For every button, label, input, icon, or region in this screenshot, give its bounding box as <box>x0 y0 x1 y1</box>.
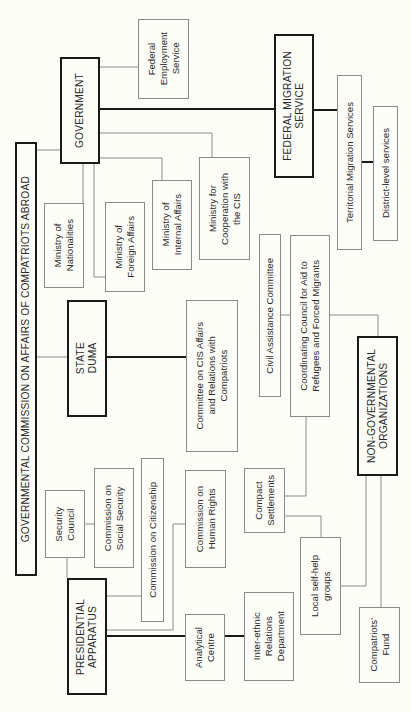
district-services-label: District-level services <box>380 128 392 218</box>
federal-migration-box: FEDERAL MIGRATION SERVICE <box>274 34 314 178</box>
compact-settlements-box: Compact Settlements <box>244 468 285 533</box>
coordinating-council-box: Coordinating Council for Aid to Refugees… <box>290 235 330 417</box>
commission-title: GOVERNMENTAL COMMISSION ON AFFAIRS OF CO… <box>20 176 32 542</box>
government-label: GOVERNMENT <box>74 73 86 148</box>
security-council-label: Security Council <box>53 507 77 542</box>
committee-cis-label: Committee on CIS Affairs and Relations w… <box>194 322 230 430</box>
ministry-foreign-box: Ministry of Foreign Affairs <box>105 202 145 292</box>
government-box: GOVERNMENT <box>60 57 100 164</box>
territorial-migration-label: Territorial Migration Services <box>344 102 356 223</box>
compact-settlements-label: Compact Settlements <box>253 475 277 526</box>
commission-citizenship-box: Commission on Citizenship <box>141 458 164 622</box>
commission-social-security-label: Commission on Social Security <box>102 485 126 551</box>
committee-cis-box: Committee on CIS Affairs and Relations w… <box>186 300 238 452</box>
interethnic-department-label: Inter-ethnic Relations Department <box>251 611 287 661</box>
compatriots-fund-label: Compatriots' Fund <box>368 618 392 672</box>
commission-citizenship-label: Commission on Citizenship <box>147 482 159 598</box>
ministry-nationalities-box: Ministry of Nationalities <box>44 203 84 288</box>
ministry-nationalities-label: Ministry of Nationalities <box>52 219 76 271</box>
interethnic-department-box: Inter-ethnic Relations Department <box>244 592 294 681</box>
federal-migration-label: FEDERAL MIGRATION SERVICE <box>282 51 306 161</box>
ministry-internal-label: Ministry of Internal Affairs <box>160 194 184 255</box>
territorial-migration-box: Territorial Migration Services <box>337 75 362 250</box>
coordinating-council-label: Coordinating Council for Aid to Refugees… <box>298 260 322 392</box>
commission-social-security-box: Commission on Social Security <box>94 468 134 568</box>
commission-human-rights-box: Commission on Human Rights <box>185 470 226 568</box>
federal-employment-label: Federal Employment Service <box>146 32 182 85</box>
civil-assistance-label: Civil Assistance Committee <box>264 258 276 374</box>
presidential-apparatus-box: PRESIDENTIAL APPARATUS <box>67 578 107 695</box>
commission-title-box: GOVERNMENTAL COMMISSION ON AFFAIRS OF CO… <box>15 142 37 576</box>
federal-employment-box: Federal Employment Service <box>138 19 189 99</box>
ministry-foreign-label: Ministry of Foreign Affairs <box>113 216 137 278</box>
local-groups-box: Local self-help groups <box>300 537 341 635</box>
commission-human-rights-label: Commission on Human Rights <box>194 486 218 552</box>
ngo-label: NON-GOVERNMENTAL ORGANIZATIONS <box>366 349 390 463</box>
ministry-cis-box: Ministry for Cooperation with the CIS <box>199 157 250 260</box>
local-groups-label: Local self-help groups <box>309 555 333 617</box>
security-council-box: Security Council <box>45 490 85 558</box>
ngo-box: NON-GOVERNMENTAL ORGANIZATIONS <box>357 336 398 476</box>
ministry-cis-label: Ministry for Cooperation with the CIS <box>207 173 243 245</box>
analytical-centre-label: Analytical Centre <box>193 627 217 668</box>
state-duma-label: STATE DUMA <box>75 342 99 374</box>
civil-assistance-box: Civil Assistance Committee <box>259 234 281 397</box>
district-services-box: District-level services <box>373 106 398 241</box>
presidential-apparatus-label: PRESIDENTIAL APPARATUS <box>75 599 99 675</box>
analytical-centre-box: Analytical Centre <box>185 614 225 681</box>
compatriots-fund-box: Compatriots' Fund <box>359 607 400 683</box>
ministry-internal-box: Ministry of Internal Affairs <box>152 180 192 270</box>
state-duma-box: STATE DUMA <box>67 300 107 417</box>
